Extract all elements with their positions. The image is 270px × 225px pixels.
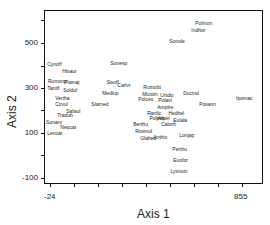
point-label: Hedhel (168, 111, 184, 116)
point-label: Polmon (195, 21, 212, 26)
point-label: Soldul (63, 88, 77, 93)
point-label: Ipomac (236, 96, 252, 101)
point-label: Rumobt (143, 85, 161, 90)
x-tick (194, 183, 195, 187)
y-tick (41, 66, 45, 67)
point-label: Perthu (172, 147, 187, 152)
point-label: Tradub (57, 113, 73, 118)
point-label: Lonjap (179, 133, 194, 138)
y-axis-label: Axis 2 (5, 95, 19, 128)
scatter-chart: 500 300 100 -100 -24 855 Axis 1 Axis 2 P… (0, 0, 270, 225)
point-label: Cynoff (47, 62, 61, 67)
x-tick (218, 183, 219, 187)
y-tick-label: 300 (8, 83, 38, 92)
point-label: Euofor (173, 158, 188, 163)
point-label: Rosmul (135, 129, 152, 134)
y-tick (41, 43, 45, 44)
y-tick (41, 110, 45, 111)
point-label: Polces (138, 97, 153, 102)
point-label: Hisaur (62, 69, 76, 74)
point-label: Cirvul (55, 102, 68, 107)
y-tick-label: 500 (8, 38, 38, 47)
y-tick-label: 100 (8, 128, 38, 137)
x-tick (74, 183, 75, 187)
point-label: Polavi (158, 98, 172, 103)
y-tick (41, 20, 45, 21)
point-label: Stamed (91, 102, 108, 107)
point-label: Glahed (140, 136, 156, 141)
point-label: Tarofl (47, 86, 59, 91)
y-tick (41, 178, 45, 179)
x-tick-label: -24 (44, 192, 56, 201)
x-tick-label: 855 (234, 192, 247, 201)
x-tick (170, 183, 171, 187)
point-label: Ducind (183, 91, 199, 96)
point-label: Indhor (191, 28, 205, 33)
point-label: Calorb (161, 122, 176, 127)
point-label: Sonesp (110, 61, 127, 66)
point-label: Nepcat (60, 125, 76, 130)
x-axis-label: Axis 1 (137, 207, 170, 221)
point-label: Sonole (169, 39, 185, 44)
y-tick (41, 88, 45, 89)
point-label: Lysnum (170, 169, 187, 174)
point-label: Lencar (47, 131, 62, 136)
point-label: Posann (199, 102, 216, 107)
x-tick (242, 183, 243, 187)
point-label: Carlvr (117, 83, 130, 88)
point-label: Plamaj (64, 80, 79, 85)
y-tick (41, 133, 45, 134)
point-label: Medlup (102, 91, 118, 96)
point-label: Berthu (133, 122, 148, 127)
x-tick (98, 183, 99, 187)
x-tick (50, 183, 51, 187)
y-tick (41, 155, 45, 156)
x-tick (122, 183, 123, 187)
y-tick-label: -100 (8, 173, 38, 182)
x-tick (146, 183, 147, 187)
